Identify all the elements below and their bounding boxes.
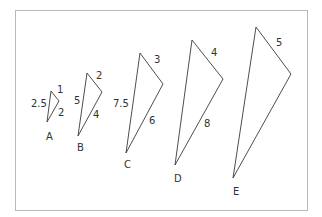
side-length-long: 2.5 (31, 98, 47, 109)
side-length-middle: 8 (204, 118, 210, 129)
side-length-long: 5 (74, 95, 80, 106)
side-length-short: 1 (57, 84, 63, 95)
side-length-short: 5 (276, 37, 282, 48)
side-length-middle: 2 (58, 107, 64, 118)
side-length-long: 7.5 (113, 98, 129, 109)
triangle-label: A (46, 131, 53, 142)
side-length-middle: 4 (93, 109, 99, 120)
side-length-short: 3 (154, 54, 160, 65)
triangle-label: D (174, 173, 182, 184)
side-length-short: 2 (96, 70, 102, 81)
triangle-label: C (124, 159, 131, 170)
side-length-middle: 6 (149, 115, 155, 126)
triangle-label: B (77, 142, 84, 153)
similar-triangles-diagram: 122.5A245B367.5C48D5E (0, 0, 322, 217)
side-length-short: 4 (211, 47, 217, 58)
triangle-label: E (233, 186, 239, 197)
